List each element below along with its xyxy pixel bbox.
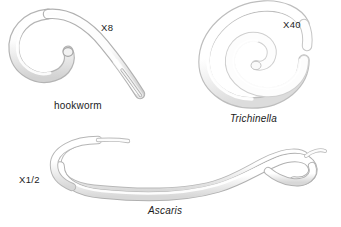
hookworm-magnification-label: X8	[101, 23, 113, 33]
trichinella-magnification-label: X40	[283, 20, 301, 30]
ascaris-illustration	[38, 132, 328, 208]
hookworm-illustration	[4, 2, 162, 102]
ascaris-magnification-label: X1/2	[19, 175, 40, 185]
nematode-figure: X8 hookworm X40 Trichinella X1/2 Ascaris	[0, 0, 341, 227]
hookworm-name-label: hookworm	[54, 101, 102, 111]
trichinella-illustration	[186, 0, 334, 112]
ascaris-name-label: Ascaris	[148, 206, 182, 216]
trichinella-name-label: Trichinella	[230, 114, 277, 124]
